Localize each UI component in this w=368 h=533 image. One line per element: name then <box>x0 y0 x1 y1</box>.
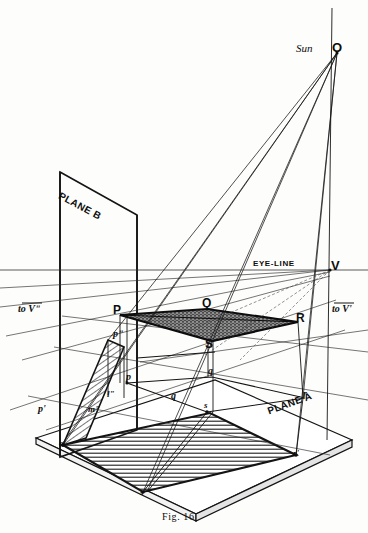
point-o-ground-label: o <box>59 438 64 448</box>
point-R-label: R <box>296 311 305 325</box>
point-Q-label: Q <box>202 296 211 310</box>
point-s-prime-label: s' <box>140 487 146 497</box>
sun-label: Sun <box>296 42 313 54</box>
point-l-dprime-label: lʺ <box>107 389 115 399</box>
to-v-double-prime-left-label: to Vʺ <box>18 303 41 314</box>
point-q-low-label: q <box>171 390 176 401</box>
point-S-label: S <box>205 337 213 351</box>
figure-container: Sun O EYE-LINE V to V' to Vʺ PLANE B PLA… <box>0 0 368 533</box>
point-P-label: P <box>113 303 121 317</box>
point-o-label: O <box>332 40 342 55</box>
figure-caption: Fig. 16 <box>162 511 195 522</box>
vanishing-point-v-label: V <box>331 258 340 273</box>
point-m-dprime-label: mʺ <box>88 404 100 414</box>
point-p-prime-label: p' <box>38 403 46 414</box>
perspective-diagram-svg <box>0 0 368 533</box>
eye-line-label: EYE-LINE <box>253 259 295 268</box>
point-q-mid-label: q <box>208 365 213 376</box>
sun-vertical-axis <box>327 8 332 440</box>
point-p-dprime-label: pʺ <box>113 328 124 339</box>
point-r-prime-label: r' <box>293 448 299 458</box>
point-s-low-label: s <box>204 400 208 410</box>
point-p-low-label: p <box>126 371 131 382</box>
point-r-low-label: r <box>303 388 307 399</box>
to-v-prime-right-label: to V' <box>332 303 352 314</box>
